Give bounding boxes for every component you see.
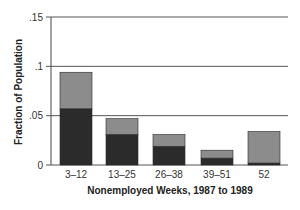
bar-segment xyxy=(106,134,138,165)
x-tick-labels: 3–1213–2526–3839–5152 xyxy=(65,169,270,180)
y-tick-label: .15 xyxy=(29,12,43,23)
bar-segment xyxy=(153,146,185,165)
bar-segment xyxy=(60,72,92,109)
x-tick-label: 39–51 xyxy=(203,169,231,180)
bar-group xyxy=(201,150,233,165)
y-tick-labels: 0.05.1.15 xyxy=(29,12,51,171)
x-tick-label: 26–38 xyxy=(155,169,183,180)
x-tick-label: 3–12 xyxy=(65,169,88,180)
bar-group xyxy=(153,134,185,165)
bar-segment xyxy=(106,119,138,135)
stacked-bar-chart: 0.05.1.15 3–1213–2526–3839–5152 Nonemplo… xyxy=(0,0,300,210)
bar-group xyxy=(106,119,138,165)
bar-group xyxy=(248,131,280,165)
y-axis-label: Fraction of Population xyxy=(13,39,24,145)
bars xyxy=(60,72,280,165)
y-tick-label: .05 xyxy=(29,110,43,121)
bar-segment xyxy=(201,158,233,165)
bar-group xyxy=(60,72,92,165)
x-tick-label: 52 xyxy=(258,169,270,180)
y-tick-label: 0 xyxy=(37,160,43,171)
bar-segment xyxy=(153,134,185,146)
y-tick-label: .1 xyxy=(35,61,44,72)
bar-segment xyxy=(60,109,92,165)
bar-segment xyxy=(248,131,280,163)
x-axis-label: Nonemployed Weeks, 1987 to 1989 xyxy=(87,185,253,196)
bar-segment xyxy=(201,150,233,158)
x-tick-label: 13–25 xyxy=(108,169,136,180)
